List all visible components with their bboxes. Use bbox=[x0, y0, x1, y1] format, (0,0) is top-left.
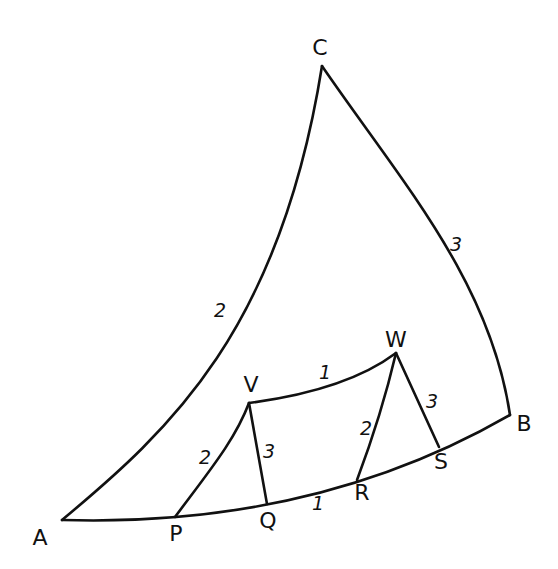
edge-weight-a-c: 2 bbox=[214, 301, 226, 320]
vertex-label-b: B bbox=[516, 413, 531, 435]
edge-weight-v-w: 1 bbox=[319, 363, 331, 382]
vertex-label-a: A bbox=[32, 527, 47, 549]
edge-weight-v-q: 3 bbox=[263, 442, 275, 461]
diagram-canvas: 23231231ABCPQRSVW bbox=[0, 0, 558, 569]
edge-weight-p-v: 2 bbox=[199, 448, 211, 467]
edge-weight-w-s: 3 bbox=[426, 392, 438, 411]
edge-weight-q-r: 1 bbox=[312, 494, 324, 513]
vertex-label-s: S bbox=[434, 451, 448, 473]
vertex-label-w: W bbox=[385, 329, 407, 351]
vertex-label-c: C bbox=[312, 37, 327, 59]
vertex-label-v: V bbox=[243, 374, 258, 396]
edge-p-v bbox=[175, 403, 249, 517]
vertex-label-p: P bbox=[169, 523, 182, 545]
vertex-label-q: Q bbox=[259, 510, 276, 532]
vertex-label-r: R bbox=[354, 482, 369, 504]
edge-c-b bbox=[322, 66, 510, 415]
edges-layer bbox=[0, 0, 558, 569]
edge-weight-c-b: 3 bbox=[450, 235, 462, 254]
edge-a-c bbox=[62, 66, 322, 520]
edge-weight-w-r: 2 bbox=[360, 419, 372, 438]
